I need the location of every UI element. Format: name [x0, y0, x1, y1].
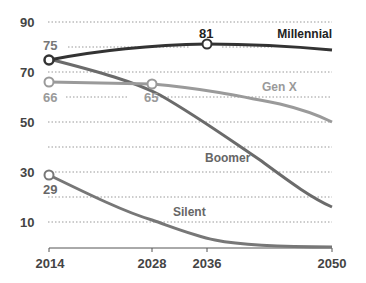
value-label-29: 29 [43, 182, 57, 197]
x-tick-2014: 2014 [36, 256, 66, 271]
y-tick-70: 70 [20, 65, 34, 80]
series-label-silent: Silent [173, 205, 206, 219]
x-tick-2028: 2028 [138, 256, 167, 271]
x-tick-2050: 2050 [318, 256, 347, 271]
series-label-genx: Gen X [262, 80, 297, 94]
marker-millennial-2014 [45, 56, 54, 65]
value-label-75: 75 [43, 38, 57, 53]
value-label-65: 65 [144, 90, 158, 105]
y-tick-90: 90 [20, 15, 34, 30]
value-label-81: 81 [199, 26, 213, 41]
marker-silent-2014 [45, 171, 54, 180]
line-chart: 90 70 50 30 10 2014 2028 2036 2050 75 66… [0, 0, 366, 283]
y-tick-30: 30 [20, 165, 34, 180]
x-tick-2036: 2036 [193, 256, 222, 271]
y-tick-50: 50 [20, 115, 34, 130]
series-label-millennial: Millennial [277, 27, 332, 41]
marker-genx-2014 [45, 78, 54, 87]
value-label-66: 66 [43, 90, 57, 105]
chart-svg: 90 70 50 30 10 2014 2028 2036 2050 75 66… [0, 0, 366, 283]
series-label-boomer: Boomer [205, 151, 251, 165]
x-axis [49, 248, 332, 252]
marker-genx-2028 [148, 80, 157, 89]
y-tick-10: 10 [20, 215, 34, 230]
